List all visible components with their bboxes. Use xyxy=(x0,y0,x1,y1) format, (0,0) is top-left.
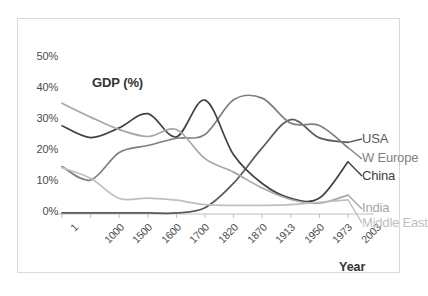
y-tick-label-10: 10% xyxy=(18,174,58,186)
y-tick-label-40: 40% xyxy=(18,81,58,93)
legend-label-middle-east: Middle East xyxy=(362,215,428,230)
y-tick-label-0: 0% xyxy=(18,205,58,217)
y-tick-label-20: 20% xyxy=(18,143,58,155)
legend-label-w-europe: W Europe xyxy=(362,150,418,165)
series-line-middle-east xyxy=(62,168,348,206)
series-lines xyxy=(62,95,362,223)
x-axis-title: Year xyxy=(339,260,365,274)
series-leader-usa xyxy=(348,139,362,142)
series-leader-w-europe xyxy=(348,148,362,159)
series-leader-china xyxy=(348,162,362,176)
legend-label-india: India xyxy=(362,200,389,215)
y-axis-title: GDP (%) xyxy=(92,75,143,90)
chart-frame: 50% 40% 30% 20% 10% 0% GDP (%) Year 1100… xyxy=(17,18,400,273)
y-tick-label-30: 30% xyxy=(18,112,58,124)
series-line-china xyxy=(62,100,348,202)
series-leader-middle-east xyxy=(348,200,362,223)
legend-label-china: China xyxy=(362,168,395,183)
series-line-w-europe xyxy=(62,95,348,180)
axis-lines xyxy=(56,214,374,218)
y-tick-label-50: 50% xyxy=(18,50,58,62)
legend-label-usa: USA xyxy=(362,131,388,146)
